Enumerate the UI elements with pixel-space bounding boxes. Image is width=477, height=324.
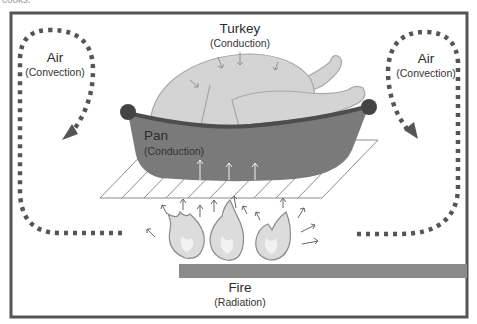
pan-handle-left	[120, 104, 136, 120]
heat-transfer-diagram: cooks.	[0, 0, 477, 324]
air-right-arrowhead	[404, 122, 418, 139]
turkey-label: Turkey	[220, 22, 261, 36]
pan-sublabel: (Conduction)	[144, 146, 204, 157]
fire-label: Fire	[228, 281, 251, 295]
pan-label: Pan	[144, 129, 168, 143]
air-left-sublabel: (Convection)	[25, 67, 85, 78]
cropped-text-fragment: cooks.	[2, 0, 31, 5]
fire-bar	[179, 264, 467, 278]
air-left-label: Air	[47, 51, 64, 65]
pan-handle-right	[361, 99, 377, 115]
turkey-sublabel: (Conduction)	[210, 38, 270, 49]
air-right-label: Air	[418, 52, 435, 66]
air-right-sublabel: (Convection)	[396, 68, 456, 79]
fire-sublabel: (Radiation)	[214, 297, 265, 308]
air-right-convection-path	[357, 32, 458, 234]
